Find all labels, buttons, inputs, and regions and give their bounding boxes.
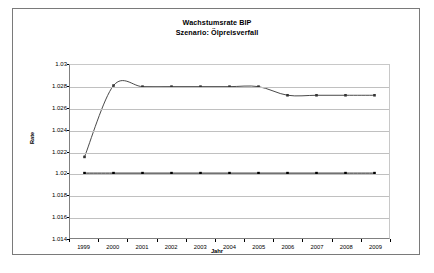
gridline [70,218,389,219]
gridline [70,131,389,132]
x-tick-mark [302,239,303,242]
chart-title: Wachstumsrate BIP Szenario: Ölpreisverfa… [13,18,421,37]
x-tick-mark [273,239,274,242]
x-tick-mark [186,239,187,242]
x-tick-mark [127,239,128,242]
y-tick-label: 1.02 [25,170,67,176]
x-tick-mark [361,239,362,242]
data-point-marker [344,94,347,97]
y-tick-label: 1.018 [25,192,67,198]
x-tick-mark [215,239,216,242]
x-tick-mark [244,239,245,242]
gridline [70,153,389,154]
x-tick-mark [332,239,333,242]
gridline [70,174,389,175]
chart-title-line1: Wachstumsrate BIP [13,18,421,28]
x-tick-mark [157,239,158,242]
y-tick-label: 1.028 [25,83,67,89]
chart-container: Wachstumsrate BIP Szenario: Ölpreisverfa… [12,8,420,255]
chart-title-line2: Szenario: Ölpreisverfall [13,28,421,38]
data-point-marker [373,94,376,97]
data-point-marker [286,94,289,97]
y-tick-label: 1.03 [25,61,67,67]
gridline [70,109,389,110]
x-tick-mark [390,239,391,242]
y-axis-ticks: 1.0141.0161.0181.021.0221.0241.0261.0281… [21,64,67,239]
gridline [70,87,389,88]
gridline [70,196,389,197]
y-tick-label: 1.014 [25,236,67,242]
plot-area [69,64,390,239]
x-tick-mark [98,239,99,242]
x-axis-label: Jahr [13,248,421,254]
y-tick-label: 1.022 [25,149,67,155]
data-point-marker [315,94,318,97]
y-tick-label: 1.016 [25,214,67,220]
y-tick-label: 1.026 [25,105,67,111]
x-tick-mark [69,239,70,242]
data-point-marker [83,156,86,159]
series-line [85,81,375,157]
y-tick-label: 1.024 [25,127,67,133]
series-layer [70,65,389,238]
